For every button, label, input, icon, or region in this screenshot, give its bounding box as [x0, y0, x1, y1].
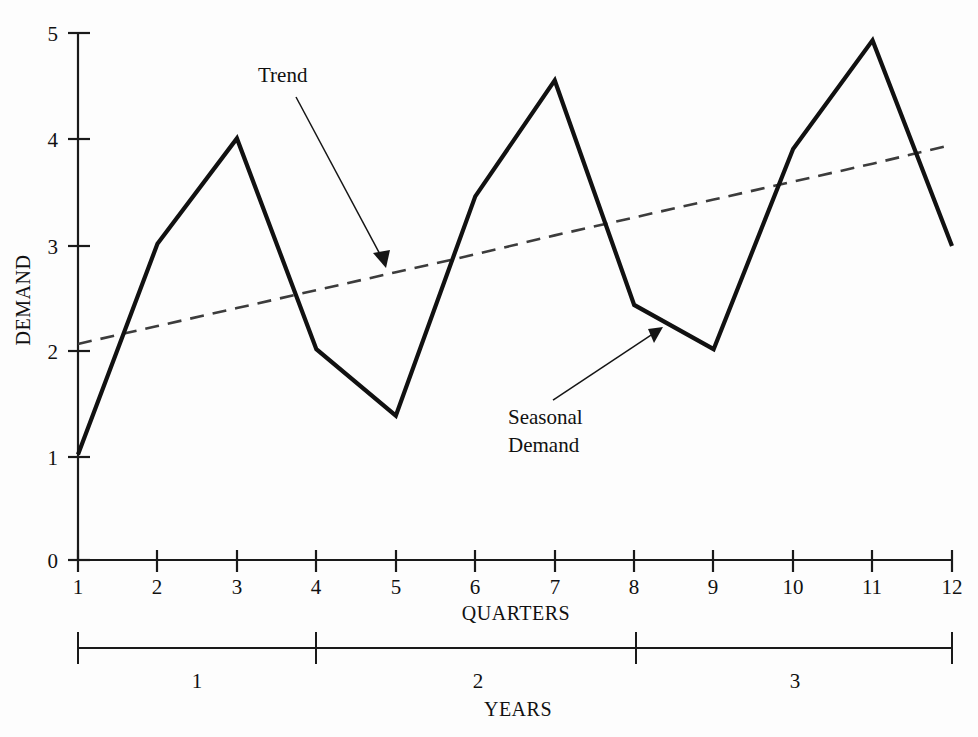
x-ticklabel-5: 5 — [391, 575, 402, 599]
seasonal-demand-line — [78, 40, 952, 454]
x-ticklabel-1: 1 — [73, 575, 84, 599]
seasonal-annotation-label-line1: Seasonal — [508, 405, 583, 429]
y-ticklabel-4: 4 — [48, 128, 59, 152]
y-axis-title: DEMAND — [12, 255, 34, 346]
x-axis-tick-labels: 1 2 3 4 5 6 7 8 9 10 11 12 — [73, 575, 963, 599]
seasonal-demand-annotation: Seasonal Demand — [508, 327, 663, 457]
x-ticklabel-2: 2 — [152, 575, 163, 599]
y-ticklabel-2: 2 — [48, 340, 59, 364]
year-label-1: 1 — [192, 669, 203, 693]
year-label-2: 2 — [473, 669, 484, 693]
y-axis-tick-labels: 5 4 3 2 1 0 — [48, 22, 59, 573]
demand-seasonality-chart: 5 4 3 2 1 0 DEMAND 1 — [0, 0, 978, 737]
y-ticklabel-0: 0 — [48, 549, 59, 573]
trend-annotation-label: Trend — [258, 63, 308, 87]
seasonal-annotation-leader — [553, 333, 654, 400]
seasonal-annotation-label-line2: Demand — [508, 433, 580, 457]
x-ticklabel-6: 6 — [470, 575, 481, 599]
x-ticklabel-11: 11 — [862, 575, 882, 599]
x-ticklabel-3: 3 — [232, 575, 243, 599]
chart-canvas: 5 4 3 2 1 0 DEMAND 1 — [0, 0, 978, 737]
trend-annotation-arrowhead — [373, 250, 390, 268]
x-ticklabel-10: 10 — [783, 575, 804, 599]
years-axis: 1 2 3 YEARS — [78, 632, 952, 720]
x-ticklabel-7: 7 — [550, 575, 561, 599]
x-ticklabel-12: 12 — [942, 575, 963, 599]
trend-annotation: Trend — [258, 63, 390, 268]
x-axis-title: QUARTERS — [462, 602, 570, 624]
y-ticklabel-3: 3 — [48, 235, 59, 259]
y-ticklabel-5: 5 — [48, 22, 59, 46]
years-axis-title: YEARS — [484, 698, 552, 720]
year-label-3: 3 — [790, 669, 801, 693]
y-ticklabel-1: 1 — [48, 446, 59, 470]
x-ticklabel-8: 8 — [629, 575, 640, 599]
x-ticklabel-4: 4 — [311, 575, 322, 599]
trend-annotation-leader — [296, 97, 382, 258]
x-ticklabel-9: 9 — [708, 575, 719, 599]
